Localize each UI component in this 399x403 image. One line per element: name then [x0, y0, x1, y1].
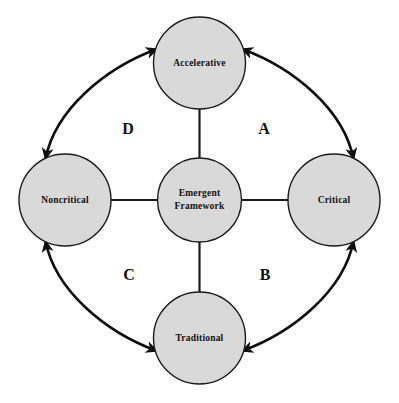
node-accelerative[interactable]: Accelerative: [154, 17, 246, 109]
arc-b-path: [242, 241, 354, 351]
arc-c-path: [46, 241, 158, 351]
node-noncritical-label: Noncritical: [41, 195, 89, 205]
node-emergent-framework-label-line1: Emergent: [179, 188, 221, 198]
node-emergent-framework-label-line2: Framework: [175, 201, 225, 211]
arc-label-d: D: [122, 120, 134, 137]
arc-label-c: C: [123, 266, 135, 283]
node-critical-label: Critical: [318, 195, 351, 205]
cyclical-framework-diagram: Accelerative (upper-left, bulging out) -…: [0, 0, 399, 403]
node-critical[interactable]: Critical: [288, 154, 380, 246]
node-traditional-label: Traditional: [176, 333, 224, 343]
arc-label-b: B: [260, 266, 271, 283]
node-emergent-framework-circle[interactable]: [158, 158, 242, 242]
node-accelerative-label: Accelerative: [173, 58, 226, 68]
diagram-canvas: Accelerative (upper-left, bulging out) -…: [0, 0, 399, 403]
arc-d-path: [46, 49, 158, 159]
node-emergent-framework[interactable]: Emergent Framework: [158, 158, 242, 242]
arc-a-path: [242, 49, 354, 159]
arc-label-a: A: [258, 120, 270, 137]
node-noncritical[interactable]: Noncritical: [19, 154, 111, 246]
node-traditional[interactable]: Traditional: [154, 292, 246, 384]
